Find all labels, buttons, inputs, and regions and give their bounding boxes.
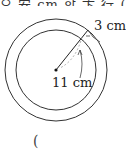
concentric-circles-diagram: 3 cm 11 cm <box>0 0 126 149</box>
inner-radius-label: 11 cm <box>52 75 92 90</box>
arrowhead-icon <box>78 50 82 55</box>
answer-paren: ( <box>33 133 38 149</box>
ring-width-label: 3 cm <box>94 18 126 33</box>
center-point <box>54 68 57 71</box>
radius-line <box>56 30 88 70</box>
